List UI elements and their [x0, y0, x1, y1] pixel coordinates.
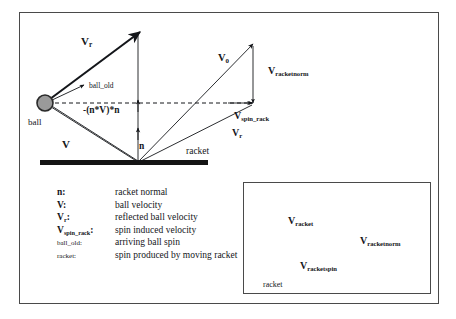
legend-description: spin produced by moving racket [115, 250, 237, 260]
legend-description: spin induced velocity [115, 225, 196, 235]
label-normal-n: n [139, 142, 144, 152]
label-v-reflected-left: Vr [81, 36, 92, 47]
legend-symbol: racket: [57, 252, 115, 260]
legend-symbol: Vr: [57, 212, 115, 222]
legend-description: ball velocity [115, 200, 162, 210]
legend-row: Vr: reflected ball velocity [57, 212, 237, 222]
legend-row: ball_old: arriving ball spin [57, 237, 237, 247]
label-v-spin-rack: Vspin_rack [234, 111, 269, 121]
legend-symbol: V: [57, 200, 115, 210]
legend-row: Vspin_rack: spin induced velocity [57, 225, 237, 235]
legend-description: racket normal [115, 187, 168, 197]
label-inset-v-racketnorm: Vracketnorm [360, 236, 401, 246]
label-projection-nvn: -(n*V)*n [83, 106, 119, 116]
physics-vector-figure: Vr ball_old ball -(n*V)*n V n racket V0 … [0, 0, 456, 319]
label-ball: ball [28, 118, 42, 127]
legend-row: n: racket normal [57, 187, 237, 197]
label-v-reflected-right: Vr [232, 128, 242, 138]
label-racket-main: racket [186, 147, 209, 157]
legend-description: arriving ball spin [115, 237, 180, 247]
legend-symbol: n: [57, 187, 115, 197]
legend-row: racket: spin produced by moving racket [57, 250, 237, 260]
label-v-zero: V0 [218, 53, 229, 64]
label-v-racketnorm-main: Vracketnorm [268, 66, 309, 76]
label-v-ball-velocity: V [62, 139, 70, 150]
legend-symbol: Vspin_rack: [57, 225, 115, 235]
vr-reflected-velocity-vector [46, 32, 140, 102]
label-inset-racket: racket [263, 281, 283, 289]
ball-circle [37, 95, 53, 111]
legend-row: V: ball velocity [57, 200, 237, 210]
label-inset-v-racket: Vracket [288, 216, 313, 226]
label-inset-v-racketspin: Vracketspin [300, 261, 337, 271]
legend-description: reflected ball velocity [115, 212, 198, 222]
legend: n: racket normal V: ball velocity Vr: re… [57, 187, 237, 262]
legend-symbol: ball_old: [57, 239, 115, 247]
racket-surface [40, 160, 208, 165]
inset-frame [243, 182, 431, 294]
label-ball-old: ball_old [89, 82, 114, 90]
